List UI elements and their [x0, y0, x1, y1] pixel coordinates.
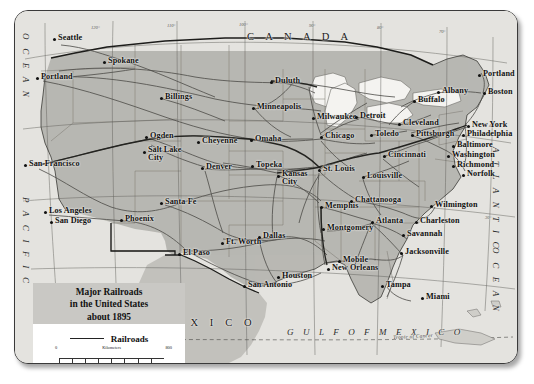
- map-title-block: Major Railroads in the United States abo…: [33, 283, 185, 364]
- city-label: Portland: [41, 72, 73, 81]
- map-title-line2: in the United States: [33, 298, 185, 310]
- city-label: Chicago: [325, 131, 354, 140]
- scale-km-labels: 0 Kilometers 800: [59, 345, 164, 358]
- city-label: Ogden: [150, 131, 174, 140]
- city-label: Miami: [426, 292, 450, 301]
- city-label: New York: [472, 120, 507, 129]
- scale-km-min: 0: [55, 345, 57, 350]
- city-label: Louisville: [367, 171, 402, 180]
- graticule-label-30: 30°: [485, 215, 491, 220]
- scale-km-unit: Kilometers: [59, 345, 164, 350]
- graticule-label-110: 110°: [167, 23, 175, 28]
- legend-label-railroads: Railroads: [111, 334, 148, 344]
- city-label: Topeka: [256, 160, 282, 169]
- city-label: Omaha: [255, 134, 281, 143]
- city-label: Phoenix: [125, 214, 154, 223]
- city-label: Savannah: [407, 229, 442, 238]
- city-label: Cleveland: [403, 118, 439, 127]
- label-pacific-ocean-word-pacific: P A C I F I C: [21, 197, 31, 286]
- city-label: Detroit: [360, 111, 386, 120]
- city-label: Washington: [452, 150, 495, 159]
- city-label: Cincinnati: [388, 150, 426, 159]
- city-label: Norfolk: [467, 169, 495, 178]
- label-pacific-ocean-word-ocean: O C E A N: [21, 33, 31, 100]
- city-label: Seattle: [58, 33, 82, 42]
- city-label: Baltimore: [457, 140, 493, 149]
- city-label: Boston: [488, 87, 513, 96]
- city-label: New Orleans: [332, 263, 378, 272]
- label-canada: C A N A D A: [247, 31, 353, 42]
- city-label: Jacksonville: [405, 247, 449, 256]
- city-label: Dallas: [263, 231, 285, 240]
- legend-row: Railroads: [33, 328, 185, 346]
- scale-bar: 0 Kilometers 800 0 Miles 500: [59, 345, 164, 364]
- graticule-label-70: 70°: [439, 29, 445, 34]
- city-label: Duluth: [275, 76, 300, 85]
- city-label: Los Angeles: [49, 206, 92, 215]
- map-screenshot: C A N A D A M E X I C O G U L F O F M E …: [0, 0, 534, 384]
- label-atlantic-ocean-word-ocean: O C E A N: [491, 247, 501, 314]
- city-label: Tampa: [386, 280, 411, 289]
- city-label: Ft. Worth: [226, 237, 261, 246]
- city-label: Santa Fe: [165, 197, 197, 206]
- city-label: Denver: [206, 162, 232, 171]
- city-label: Spokane: [108, 56, 139, 65]
- city-label: Atlanta: [376, 216, 403, 225]
- city-label-line: City: [148, 154, 181, 162]
- city-label: Portland: [483, 69, 515, 78]
- city-label: San Antonio: [248, 280, 292, 289]
- city-label: Toledo: [375, 129, 399, 138]
- city-label: Houston: [282, 271, 312, 280]
- city-label: Buffalo: [418, 95, 445, 104]
- scale-km-max: 800: [165, 345, 172, 350]
- city-label-line: City: [282, 178, 307, 186]
- graticule-label-120: 120°: [91, 25, 100, 30]
- city-label: El Paso: [183, 248, 210, 257]
- city-label: Milwaukee: [317, 112, 357, 121]
- city-label: Minneapolis: [257, 102, 301, 111]
- city-label: Montgomery: [327, 223, 373, 232]
- graticule-label-90: 90°: [309, 23, 315, 28]
- city-label: Charleston: [420, 216, 460, 225]
- city-label: Philadelphia: [467, 129, 512, 138]
- city-label: Richmond: [457, 160, 494, 169]
- graticule-label-100: 100°: [239, 22, 248, 27]
- city-label: Chattanooga: [355, 195, 401, 204]
- city-label: Albany: [442, 86, 468, 95]
- city-label: Salt LakeCity: [148, 146, 181, 162]
- city-label: Memphis: [325, 201, 358, 210]
- city-label: Cheyenne: [202, 136, 237, 145]
- city-label: Billings: [165, 92, 192, 101]
- city-label: Pittsburgh: [416, 129, 454, 138]
- scale-bar-graphic: [59, 358, 164, 364]
- label-gulf-of-mexico: G U L F O F M E X I C O: [287, 327, 464, 337]
- map-frame: C A N A D A M E X I C O G U L F O F M E …: [14, 10, 518, 364]
- map-title-line1: Major Railroads: [33, 286, 185, 298]
- city-label: KansasCity: [282, 170, 307, 186]
- map-title-line3: about 1895: [33, 311, 185, 323]
- city-label: San Francisco: [29, 159, 80, 168]
- railroad-line-swatch: [70, 338, 104, 339]
- city-label: Wilmington: [435, 200, 478, 209]
- city-label: St. Louis: [323, 164, 355, 173]
- city-label: San Diego: [55, 216, 91, 225]
- graticule-label-80: 80°: [377, 25, 383, 30]
- map-title: Major Railroads in the United States abo…: [33, 286, 185, 323]
